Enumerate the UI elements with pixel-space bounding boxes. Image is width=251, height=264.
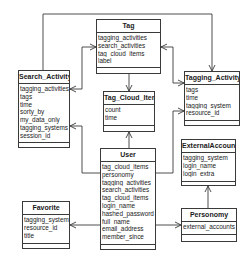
attribute-list: tags time tagging_system resource_id	[185, 85, 239, 121]
attribute: tagging_activities	[102, 179, 155, 187]
class-tag[interactable]: Tag tagging_activities search_activities…	[96, 19, 161, 74]
link-user-search	[70, 126, 100, 173]
link-tag-search	[70, 47, 96, 89]
attribute: login_name	[102, 202, 155, 210]
link-user-tagging	[156, 111, 184, 173]
class-favorite[interactable]: Favorite tagging_system resource_id titl…	[22, 201, 70, 249]
attribute-list: tagging_activities tags time sorty_by my…	[19, 84, 69, 143]
attribute: time	[105, 114, 154, 122]
class-external-account[interactable]: ExternalAccount tagging_system login_nam…	[181, 139, 236, 186]
class-name: Tag_Cloud_Item	[104, 92, 154, 105]
attribute: time	[20, 101, 69, 109]
class-name: Favorite	[23, 202, 69, 215]
attribute: resource_id	[186, 109, 239, 117]
link-tag-tagging	[161, 47, 184, 83]
attribute: tag_cloud_items	[102, 194, 155, 202]
class-name: Search_Activity	[19, 71, 69, 84]
attribute: tagging_system	[186, 102, 239, 110]
class-personomy[interactable]: Personomy external_accounts	[181, 208, 237, 242]
attribute: time	[186, 94, 239, 102]
attribute: tagging_system	[24, 216, 69, 224]
class-name: Tag	[97, 20, 160, 33]
class-search-activity[interactable]: Search_Activity tagging_activities tags …	[18, 70, 70, 148]
attribute: label	[98, 57, 160, 65]
attribute: hashed_password	[102, 210, 155, 218]
attribute: tag_cloud_items	[98, 50, 160, 58]
attribute: tagging_activities	[20, 85, 69, 93]
attribute: resource_id	[24, 224, 69, 232]
attribute: personomy	[102, 171, 155, 179]
attribute: full_name	[102, 218, 155, 226]
class-name: ExternalAccount	[182, 140, 235, 153]
attribute: member_since	[102, 233, 155, 241]
class-tag-cloud-item[interactable]: Tag_Cloud_Item count time	[103, 91, 155, 132]
attribute-list: tagging_system login_name login_extra	[182, 153, 235, 182]
attribute: title	[24, 232, 69, 240]
class-user[interactable]: User tag_cloud_items personomy tagging_a…	[100, 148, 156, 250]
attribute: login_extra	[183, 170, 235, 178]
attribute: sorty_by	[20, 108, 69, 116]
attribute: count	[105, 106, 154, 114]
attribute-list: tag_cloud_items personomy tagging_activi…	[101, 162, 155, 245]
attribute: external_accounts	[183, 223, 236, 231]
attribute: login_name	[183, 162, 235, 170]
attribute: email_address	[102, 225, 155, 233]
uml-diagram-canvas: Tag tagging_activities search_activities…	[0, 0, 251, 264]
attribute: session_id	[20, 132, 69, 140]
class-name: Tagging_Activity	[185, 72, 239, 85]
class-name: Personomy	[182, 209, 236, 222]
attribute: search_activities	[98, 42, 160, 50]
attribute: tagging_systems	[20, 124, 69, 132]
attribute-list: external_accounts	[182, 222, 236, 235]
attribute: tag_cloud_items	[102, 163, 155, 171]
attribute: search_activities	[102, 186, 155, 194]
attribute: tags	[20, 93, 69, 101]
attribute-list: tagging_system resource_id title	[23, 215, 69, 244]
attribute: tagging_system	[183, 154, 235, 162]
attribute-list: count time	[104, 105, 154, 126]
attribute-list: tagging_activities search_activities tag…	[97, 33, 160, 68]
class-name: User	[101, 149, 155, 162]
attribute: tagging_activities	[98, 34, 160, 42]
attribute: my_data_only	[20, 116, 69, 124]
class-tagging-activity[interactable]: Tagging_Activity tags time tagging_syste…	[184, 71, 240, 126]
attribute: tags	[186, 86, 239, 94]
